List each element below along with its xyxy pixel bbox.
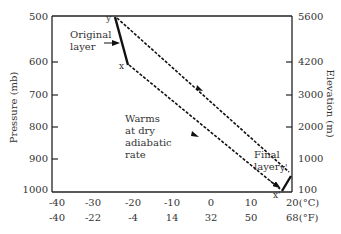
pressure-ticks — [52, 62, 58, 159]
pressure-tick-800: 800 — [20, 122, 48, 132]
elevation-ticks — [286, 62, 292, 127]
fahrenheit-tick: -4 — [118, 213, 148, 223]
elevation-tick-100: 100 — [298, 185, 317, 195]
celsius-tick: -30 — [78, 198, 108, 208]
point-y-prime-label: y' — [280, 163, 288, 173]
elevation-tick-5600: 5600 — [298, 12, 323, 22]
fahrenheit-tick: 68(°F) — [286, 213, 318, 223]
pressure-axis-label: Pressure (mb) — [8, 72, 19, 144]
fahrenheit-tick: 50 — [236, 213, 266, 223]
celsius-tick: -10 — [157, 198, 187, 208]
celsius-tick: 20(°C) — [286, 198, 319, 208]
celsius-tick: -40 — [42, 198, 72, 208]
elevation-tick-1000: 1000 — [298, 154, 323, 164]
fahrenheit-tick: -22 — [78, 213, 108, 223]
celsius-tick: -20 — [118, 198, 148, 208]
celsius-tick: 10 — [236, 198, 266, 208]
arrow-icon — [196, 85, 203, 91]
fahrenheit-tick: 14 — [157, 213, 187, 223]
pressure-tick-1000: 1000 — [20, 185, 48, 195]
final-pointer-arrow — [269, 180, 279, 187]
point-y-label: y — [106, 13, 111, 23]
elevation-axis-label: Elevation (m) — [325, 69, 336, 137]
arrow-icon — [191, 131, 199, 137]
pressure-tick-600: 600 — [20, 57, 48, 67]
elevation-tick-4200: 4200 — [298, 57, 323, 67]
point-x-prime-label: x' — [273, 190, 281, 200]
original-layer-label: Original layer — [70, 29, 111, 53]
original-layer-line — [115, 17, 128, 65]
pressure-tick-900: 900 — [20, 154, 48, 164]
elevation-tick-2000: 2000 — [298, 122, 323, 132]
final-layer-line — [282, 176, 291, 191]
warms-label: Warms at dry adiabatic rate — [125, 113, 172, 161]
pressure-tick-700: 700 — [20, 90, 48, 100]
pressure-tick-500: 500 — [20, 12, 48, 22]
fahrenheit-tick: -40 — [42, 213, 72, 223]
elevation-tick-3000: 3000 — [298, 90, 323, 100]
fahrenheit-tick: 32 — [196, 213, 226, 223]
celsius-tick: 0 — [196, 198, 226, 208]
final-layer-label: Final layer — [254, 149, 280, 173]
point-x-label: x — [119, 61, 124, 71]
